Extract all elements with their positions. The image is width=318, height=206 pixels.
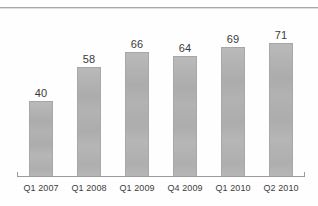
bar-value-label: 40 [17, 87, 65, 99]
bar-value-label: 66 [113, 38, 161, 50]
bar-value-label: 71 [257, 29, 305, 41]
category-axis-line [17, 176, 305, 177]
bar-chart-figure: 40 58 66 64 69 71 Q1 2007 Q1 2008 Q1 2 [0, 0, 318, 206]
bar-slot: 40 [17, 12, 65, 176]
axis-tick-left [17, 172, 18, 177]
bar-value-label: 64 [161, 42, 209, 54]
bar-slot: 71 [257, 12, 305, 176]
category-label-q1-2009: Q1 2009 [113, 181, 161, 195]
axis-tick-right [304, 172, 305, 177]
category-label-q4-2009: Q4 2009 [161, 181, 209, 195]
bar-value-label: 58 [65, 53, 113, 65]
bar-slot: 69 [209, 12, 257, 176]
bar-slot: 66 [113, 12, 161, 176]
category-label-q1-2007: Q1 2007 [17, 181, 65, 195]
bar-rect[interactable] [173, 56, 197, 176]
bar-slot: 64 [161, 12, 209, 176]
bar-slot: 58 [65, 12, 113, 176]
category-label-q1-2008: Q1 2008 [65, 181, 113, 195]
bar-series-group: 40 58 66 64 69 71 [17, 12, 305, 176]
bar-rect[interactable] [269, 43, 293, 176]
category-axis-labels: Q1 2007 Q1 2008 Q1 2009 Q4 2009 Q1 2010 … [17, 181, 305, 199]
category-label-q1-2010: Q1 2010 [209, 181, 257, 195]
top-divider-rule-shadow [0, 8, 318, 9]
bar-rect[interactable] [125, 52, 149, 176]
bar-rect[interactable] [221, 47, 245, 176]
category-label-q2-2010: Q2 2010 [257, 181, 305, 195]
bar-rect[interactable] [29, 101, 53, 176]
bar-rect[interactable] [77, 67, 101, 176]
bar-value-label: 69 [209, 33, 257, 45]
